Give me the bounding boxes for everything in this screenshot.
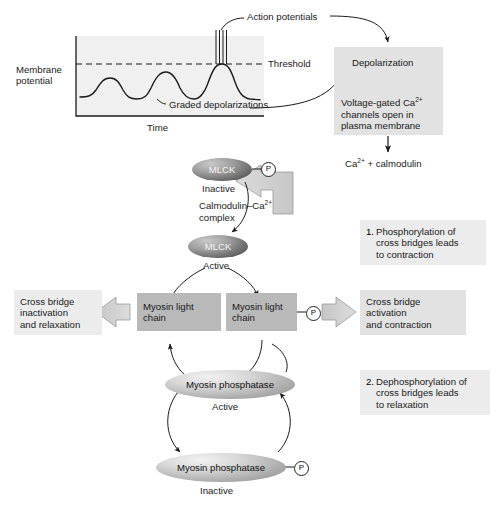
- superscript-2plus: 2+: [265, 199, 273, 206]
- phosphate-label: P: [266, 164, 271, 173]
- myosin-phosphatase-inactive-label: Myosin phosphatase: [177, 462, 265, 473]
- superscript-2plus: 2+: [357, 157, 365, 164]
- graph-x-axis-label: Time: [147, 122, 168, 133]
- phosphate-circle-mlck: P: [261, 162, 276, 177]
- depolarization-label: Depolarization: [352, 57, 413, 68]
- myosin-phosphatase-active-ellipse: Myosin phosphatase: [165, 370, 295, 399]
- phosphate-circle-myosin-phosphatase: P: [294, 461, 309, 476]
- calmodulin-complex-label: Calmodulin–Ca2+ complex: [199, 197, 294, 223]
- phosphate-label: P: [311, 308, 316, 317]
- cross-bridge-inactivation-text: Cross bridge inactivation and relaxation: [20, 296, 104, 330]
- diagram-canvas: Membrane potential Time Threshold Action…: [0, 0, 498, 522]
- voltage-gated-channels-label: Voltage-gated Ca2+ channels open in plas…: [341, 94, 441, 131]
- myosin-phosphatase-inactive-ellipse: Myosin phosphatase: [156, 453, 286, 482]
- graded-depolarizations-label: Graded depolarizations: [169, 99, 268, 110]
- action-potentials-label: Action potentials: [247, 11, 317, 22]
- myosin-light-chain-right-text: Myosin light chain: [232, 301, 302, 324]
- step-1-number: 1.: [366, 226, 374, 238]
- step-1-text: Phosphorylation of cross bridges leads t…: [376, 226, 484, 260]
- threshold-label: Threshold: [268, 58, 311, 69]
- mlck-inactive-state-label: Inactive: [202, 183, 235, 194]
- mlck-active-state-label: Active: [203, 260, 229, 271]
- phosphate-label: P: [299, 463, 304, 472]
- step-2-text: Dephosphorylation of cross bridges leads…: [376, 376, 488, 410]
- ca-calmodulin-label: Ca2+ + calmodulin: [345, 155, 422, 170]
- phosphatase-active-state-label: Active: [212, 401, 238, 412]
- myosin-phosphatase-active-label: Myosin phosphatase: [186, 379, 274, 390]
- phosphatase-inactive-state-label: Inactive: [200, 485, 233, 496]
- cross-bridge-activation-text: Cross bridge activation and contraction: [366, 296, 464, 330]
- graph-y-axis-label: Membrane potential: [16, 64, 62, 87]
- phosphate-circle-myosin-light-chain: P: [306, 306, 321, 321]
- myosin-light-chain-left-text: Myosin light chain: [143, 301, 221, 324]
- mlck-inactive-label: MLCK: [209, 164, 236, 175]
- mlck-active-label: MLCK: [205, 241, 232, 252]
- superscript-2plus: 2+: [415, 96, 423, 103]
- mlck-inactive-ellipse: MLCK: [192, 158, 252, 181]
- step-2-number: 2.: [366, 376, 374, 388]
- mlck-active-ellipse: MLCK: [188, 235, 248, 258]
